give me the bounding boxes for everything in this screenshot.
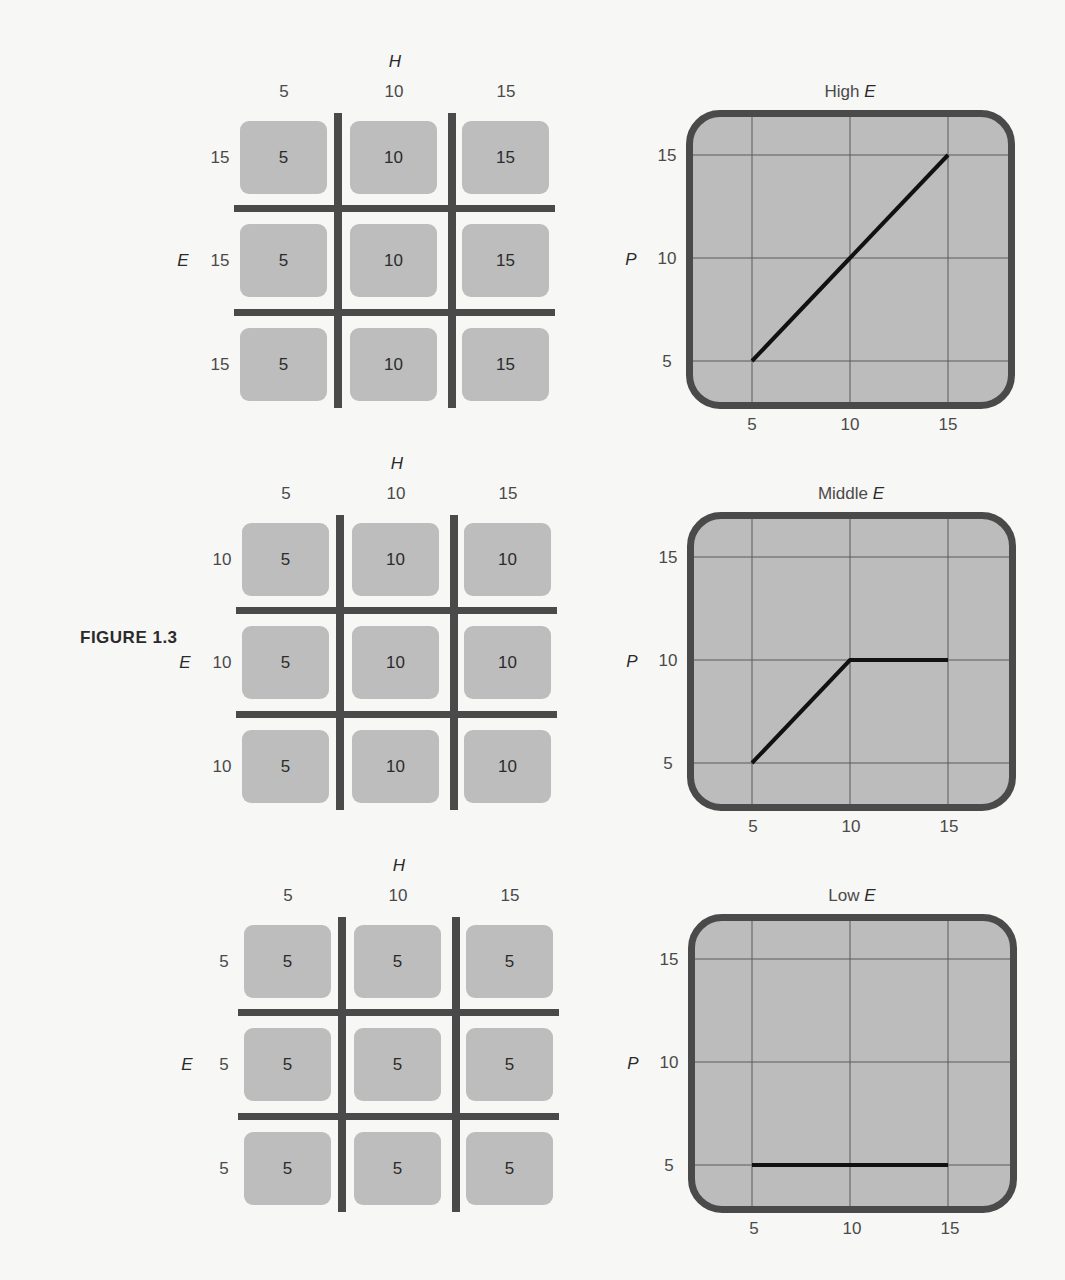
- grid-cell: 15: [462, 224, 549, 297]
- grid-cell: 5: [240, 224, 327, 297]
- grid-cell: 5: [244, 1132, 331, 1205]
- grid-cell: 10: [350, 328, 437, 401]
- y-tick-label: 10: [660, 1053, 679, 1073]
- grid-divider-vertical: [338, 917, 346, 1212]
- chart-title: Middle E: [818, 484, 884, 504]
- grid-col-label: 10: [389, 886, 408, 906]
- e-axis-label: E: [179, 653, 190, 673]
- y-axis-label: P: [626, 652, 637, 672]
- grid-col-label: 15: [501, 886, 520, 906]
- grid-cell: 10: [352, 523, 439, 596]
- grid-divider-horizontal: [234, 205, 555, 212]
- y-tick-label: 15: [658, 146, 677, 166]
- grid-row-label: 5: [219, 1159, 228, 1179]
- grid-cell: 5: [244, 925, 331, 998]
- y-tick-label: 10: [659, 651, 678, 671]
- grid-divider-vertical: [334, 113, 342, 408]
- y-tick-label: 15: [660, 950, 679, 970]
- grid-divider-horizontal: [234, 309, 555, 316]
- grid-cell: 5: [242, 730, 329, 803]
- y-axis-label: P: [627, 1054, 638, 1074]
- grid-cell: 10: [464, 523, 551, 596]
- y-tick-label: 5: [662, 352, 671, 372]
- x-tick-label: 10: [843, 1219, 862, 1239]
- chart-title-text: Low: [828, 886, 864, 905]
- chart-svg: [694, 519, 1009, 804]
- chart-title: Low E: [828, 886, 875, 906]
- grid-cell: 10: [352, 730, 439, 803]
- grid-col-label: 15: [497, 82, 516, 102]
- grid-cell: 5: [242, 523, 329, 596]
- grid-row-label: 5: [219, 1055, 228, 1075]
- chart-title-text: Middle: [818, 484, 873, 503]
- grid-col-label: 5: [279, 82, 288, 102]
- grid-cell: 5: [354, 1028, 441, 1101]
- chart-title-var: E: [864, 886, 875, 905]
- grid-divider-vertical: [448, 113, 456, 408]
- chart-title-var: E: [864, 82, 875, 101]
- grid-row-label: 10: [213, 550, 232, 570]
- grid-cell: 5: [354, 1132, 441, 1205]
- chart-title-var: E: [873, 484, 884, 503]
- grid-divider-vertical: [452, 917, 460, 1212]
- grid-row-label: 5: [219, 952, 228, 972]
- y-tick-label: 15: [659, 548, 678, 568]
- panel-middle: H51015E101010510105101051010Middle EP151…: [0, 402, 1065, 804]
- e-axis-label: E: [181, 1055, 192, 1075]
- grid-cell: 15: [462, 121, 549, 194]
- chart-plot-area: [686, 110, 1015, 409]
- chart-plot-area: [687, 512, 1016, 811]
- h-axis-label: H: [391, 454, 403, 474]
- grid-divider-horizontal: [236, 607, 557, 614]
- panel-low: H51015E555555555555Low EP1510551015: [0, 804, 1065, 1206]
- grid-cell: 5: [244, 1028, 331, 1101]
- y-tick-label: 5: [664, 1156, 673, 1176]
- grid-row-label: 10: [213, 757, 232, 777]
- x-tick-label: 5: [749, 1219, 758, 1239]
- grid-cell: 5: [466, 925, 553, 998]
- grid-col-label: 5: [281, 484, 290, 504]
- chart-svg: [693, 117, 1008, 402]
- grid-cell: 5: [466, 1028, 553, 1101]
- grid-cell: 10: [464, 730, 551, 803]
- grid-cell: 10: [350, 224, 437, 297]
- grid-row-label: 10: [213, 653, 232, 673]
- x-tick-label: 15: [941, 1219, 960, 1239]
- grid-row-label: 15: [211, 148, 230, 168]
- grid-divider-vertical: [336, 515, 344, 810]
- e-axis-label: E: [177, 251, 188, 271]
- grid-cell: 10: [464, 626, 551, 699]
- grid-divider-horizontal: [238, 1009, 559, 1016]
- grid-cell: 10: [350, 121, 437, 194]
- grid-cell: 5: [242, 626, 329, 699]
- y-tick-label: 10: [658, 249, 677, 269]
- grid-row-label: 15: [211, 355, 230, 375]
- h-axis-label: H: [393, 856, 405, 876]
- h-axis-label: H: [389, 52, 401, 72]
- panel-high: H51015E151515510155101551015High EP15105…: [0, 0, 1065, 402]
- grid-divider-horizontal: [236, 711, 557, 718]
- grid-row-label: 15: [211, 251, 230, 271]
- grid-cell: 5: [240, 328, 327, 401]
- grid-cell: 15: [462, 328, 549, 401]
- grid-divider-vertical: [450, 515, 458, 810]
- grid-cell: 5: [354, 925, 441, 998]
- chart-plot-area: [688, 914, 1017, 1213]
- y-axis-label: P: [625, 250, 636, 270]
- grid-col-label: 15: [499, 484, 518, 504]
- y-tick-label: 5: [663, 754, 672, 774]
- chart-svg: [695, 921, 1010, 1206]
- grid-divider-horizontal: [238, 1113, 559, 1120]
- chart-title: High E: [824, 82, 875, 102]
- grid-cell: 5: [466, 1132, 553, 1205]
- chart-title-text: High: [824, 82, 864, 101]
- grid-col-label: 10: [385, 82, 404, 102]
- grid-col-label: 10: [387, 484, 406, 504]
- grid-cell: 5: [240, 121, 327, 194]
- grid-cell: 10: [352, 626, 439, 699]
- grid-col-label: 5: [283, 886, 292, 906]
